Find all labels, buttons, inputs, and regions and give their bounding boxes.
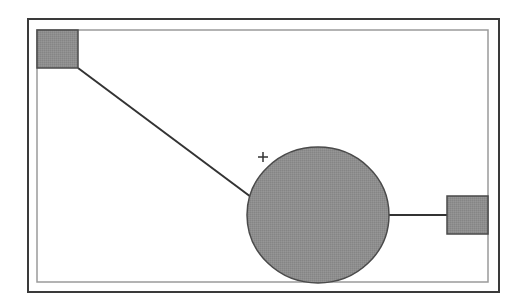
- node-square-top-left[interactable]: [37, 30, 78, 68]
- node-circle-center[interactable]: [247, 147, 389, 283]
- diagram-canvas: [0, 0, 523, 304]
- diagram-svg: [0, 0, 523, 304]
- node-square-right[interactable]: [447, 196, 488, 234]
- markers-layer: [258, 152, 268, 162]
- edge-square-top-left-to-circle-center: [78, 68, 251, 197]
- plus-icon: [258, 152, 268, 162]
